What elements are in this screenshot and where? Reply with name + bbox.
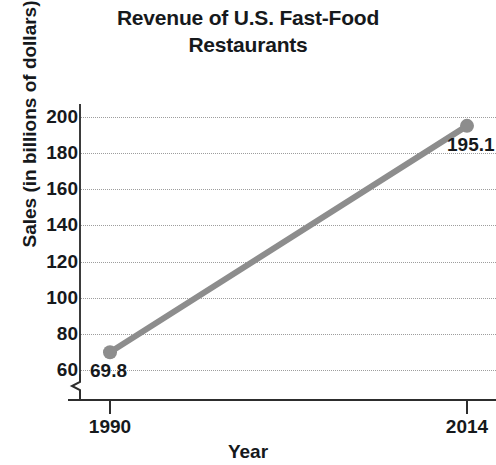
data-point-marker[interactable] [103,345,117,359]
data-series-line [0,0,496,465]
series-polyline [110,126,467,352]
data-point-marker[interactable] [460,119,474,133]
data-point-label: 69.8 [90,360,127,382]
data-point-label: 195.1 [447,134,495,156]
chart-figure: Revenue of U.S. Fast-Food Restaurants Sa… [0,0,496,465]
